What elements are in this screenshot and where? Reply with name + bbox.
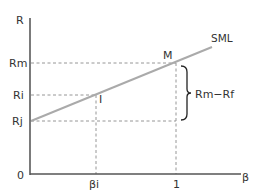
x-axis-label: β	[242, 171, 249, 184]
y-axis-label: R	[16, 14, 24, 27]
origin-label: 0	[17, 169, 24, 182]
tick-label-beta-i: βi	[89, 178, 99, 190]
premium-label: Rm−Rf	[195, 88, 235, 101]
sml-diagram: R β 0 Rm Ri Rj βi 1 M I SML Rm−Rf	[0, 0, 260, 190]
sml-label: SML	[211, 32, 233, 44]
guide-lines	[31, 63, 176, 174]
point-label-m: M	[163, 49, 173, 62]
tick-label-rm: Rm	[9, 57, 27, 70]
tick-label-rj: Rj	[12, 115, 23, 128]
tick-label-ri: Ri	[13, 89, 24, 102]
sml-line	[31, 47, 212, 121]
premium-brace	[181, 66, 191, 120]
point-label-i: I	[99, 93, 102, 106]
tick-label-one: 1	[173, 178, 180, 190]
